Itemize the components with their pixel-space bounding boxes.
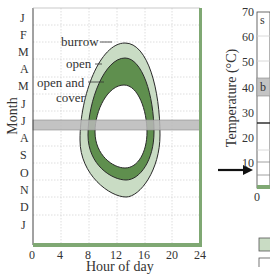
month-label: J — [20, 11, 25, 26]
hour-tick: 20 — [166, 248, 178, 263]
label-burrow: burrow — [61, 34, 99, 50]
legend-swatch-1 — [259, 258, 270, 267]
month-label: A — [20, 62, 29, 77]
month-label: D — [20, 200, 29, 215]
hour-tick: 24 — [194, 248, 206, 263]
x-tick-0: 0 — [254, 190, 260, 205]
temp-tick: 50 — [242, 55, 254, 70]
month-hour-chart: burrow open open and cover J F M A M J J… — [0, 0, 215, 267]
month-label: N — [20, 183, 29, 198]
hour-tick: 4 — [57, 248, 63, 263]
y-axis-title: Month — [5, 91, 21, 141]
label-open-cover-line2: cover — [56, 90, 85, 106]
month-label: J — [21, 114, 26, 129]
legend-swatch-0 — [259, 238, 270, 251]
label-open: open — [66, 56, 91, 72]
month-label: A — [20, 131, 29, 146]
temp-tick: 20 — [242, 131, 254, 146]
inner-label-b: b — [260, 80, 266, 95]
month-label: F — [20, 28, 27, 43]
temp-tick: 40 — [242, 81, 254, 96]
month-label: S — [20, 148, 27, 163]
highlight-band — [33, 120, 200, 130]
inner-label-s: s — [260, 13, 265, 28]
month-label: M — [18, 45, 29, 60]
month-hour-plot — [0, 0, 215, 267]
label-open-cover-line1: open and — [37, 75, 84, 91]
temp-tick: 70 — [242, 5, 254, 20]
month-label: J — [21, 218, 26, 233]
temperature-chart: 70 60 50 40 30 20 10 0 s b Temperature (… — [215, 0, 270, 267]
x-axis-title: Hour of day — [86, 260, 154, 274]
temp-tick: 30 — [242, 106, 254, 121]
temp-tick: 10 — [242, 156, 254, 171]
month-label: O — [20, 166, 29, 181]
month-label: J — [21, 97, 26, 112]
right-frame-bar — [199, 8, 202, 246]
temp-tick: 60 — [242, 30, 254, 45]
temp-axis-title: Temperature (°C) — [224, 43, 240, 153]
bottom-frame-bar — [33, 243, 202, 247]
hour-tick: 0 — [29, 248, 35, 263]
